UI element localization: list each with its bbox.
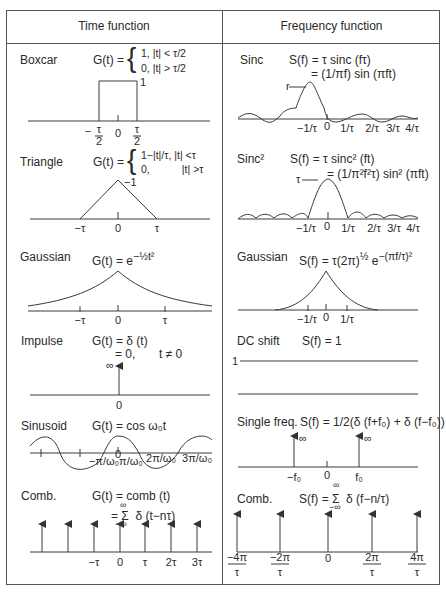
- sinc-squared-plot: [238, 179, 418, 219]
- triangle-plot: [30, 180, 210, 219]
- sinusoid-tick-3: 2π/ω₀: [146, 452, 176, 464]
- sinc-squared-tick-4: 3/τ: [387, 222, 401, 234]
- sinc-squared-tick-2: 1/τ: [341, 222, 355, 234]
- sinc-squared-peak-label: τ: [296, 173, 301, 185]
- impulse-infinity-label: ∞: [106, 359, 114, 371]
- sinc-tick-3: 2/τ: [365, 122, 379, 134]
- sinc-squared-tick-0: −1/τ: [296, 222, 317, 234]
- comb-freq-tick-num-1: −2π: [270, 551, 291, 563]
- dc-shift-plot: [238, 361, 418, 394]
- triangle-tick-2: τ: [155, 222, 160, 234]
- sinc-plot: [238, 82, 418, 122]
- gaussian-freq-tick-1: 0: [323, 311, 329, 323]
- sinusoid-tick-2: π/ω₀: [119, 455, 143, 467]
- boxcar-plot: [28, 81, 210, 121]
- single-freq-tick-0: −f₀: [287, 471, 301, 483]
- sinc-tick-5: 4/τ: [405, 122, 419, 134]
- comb-time-tick-1: 0: [117, 556, 123, 568]
- sinc-squared-tick-5: 4/τ: [406, 222, 420, 234]
- sinc-tick-1: 0: [324, 120, 330, 132]
- comb-freq-tick-den-1: τ: [278, 566, 283, 578]
- comb-freq-tick-num-2: 0: [325, 552, 331, 564]
- gaussian-time-tick-2: τ: [163, 314, 168, 326]
- comb-time-tick-0: −τ: [89, 556, 100, 568]
- comb-time-tick-3: 2τ: [166, 556, 177, 568]
- impulse-tick-0: 0: [116, 399, 122, 411]
- plot-canvas: 1 − τ 2 0 τ 2 r −1/τ 0 1/τ 2/τ 3/τ 4/τ −…: [0, 0, 446, 594]
- single-freq-plot: [238, 436, 418, 467]
- single-freq-tick-1: 0: [324, 469, 330, 481]
- sinc-tick-4: 3/τ: [386, 122, 400, 134]
- comb-freq-tick-den-0: τ: [235, 566, 240, 578]
- impulse-plot: [30, 366, 210, 395]
- boxcar-tick-pos-num: τ: [135, 123, 140, 135]
- gaussian-freq-tick-0: −1/τ: [297, 313, 318, 325]
- single-freq-inf-right: ∞: [364, 432, 372, 444]
- sinc-tick-2: 1/τ: [340, 122, 354, 134]
- triangle-peak-label: −1: [124, 176, 137, 188]
- comb-freq-tick-den-3: τ: [370, 566, 375, 578]
- comb-freq-tick-num-4: 4π: [410, 551, 424, 563]
- dc-shift-level-label: 1: [232, 355, 238, 367]
- sinc-peak-label: r: [286, 80, 290, 92]
- comb-time-plot: [30, 524, 212, 552]
- boxcar-peak-label: 1: [140, 76, 146, 88]
- gaussian-freq-tick-2: 1/τ: [340, 313, 354, 325]
- sinc-tick-0: −1/τ: [297, 122, 318, 134]
- single-freq-inf-left: ∞: [299, 432, 307, 444]
- gaussian-time-tick-1: 0: [115, 314, 121, 326]
- comb-freq-tick-den-4: τ: [415, 566, 420, 578]
- gaussian-time-tick-0: −τ: [75, 314, 86, 326]
- boxcar-tick-zero: 0: [115, 127, 121, 139]
- comb-freq-tick-num-3: 2π: [365, 551, 379, 563]
- boxcar-tick-neg: −: [85, 125, 91, 137]
- sinc-squared-tick-3: 2/τ: [367, 222, 381, 234]
- boxcar-tick-neg-num: τ: [97, 123, 102, 135]
- sinusoid-tick-4: 3π/ω₀: [182, 452, 212, 464]
- comb-time-tick-2: τ: [143, 556, 148, 568]
- comb-freq-tick-num-0: −4π: [227, 551, 248, 563]
- triangle-tick-0: −τ: [75, 222, 86, 234]
- gaussian-time-plot: [28, 271, 212, 312]
- gaussian-freq-plot: [238, 271, 418, 311]
- single-freq-tick-2: f₀: [355, 471, 363, 483]
- sinc-squared-tick-1: 0: [324, 220, 330, 232]
- boxcar-tick-pos-den: 2: [134, 135, 140, 147]
- comb-time-tick-4: 3τ: [192, 556, 203, 568]
- boxcar-tick-neg-den: 2: [96, 135, 102, 147]
- triangle-tick-1: 0: [115, 222, 121, 234]
